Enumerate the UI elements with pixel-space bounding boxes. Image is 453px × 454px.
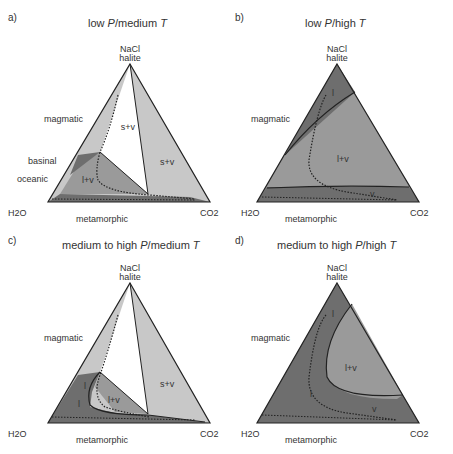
svg-text:metamorphic: metamorphic <box>285 435 338 445</box>
svg-text:CO2: CO2 <box>200 429 219 439</box>
svg-text:magmatic: magmatic <box>251 114 291 124</box>
svg-text:l: l <box>78 399 80 409</box>
svg-text:magmatic: magmatic <box>44 333 84 343</box>
svg-text:CO2: CO2 <box>410 429 429 439</box>
ternary-diagram-a: NaCl halite s+v s+v l+v magmatic basinal… <box>0 0 226 227</box>
svg-text:l: l <box>84 381 86 391</box>
svg-text:s+v: s+v <box>160 379 175 389</box>
svg-text:s+v: s+v <box>121 122 136 132</box>
svg-text:magmatic: magmatic <box>44 114 84 124</box>
panel-b: b) low P/high T NaCl halite l l+v v magm… <box>227 0 453 227</box>
svg-text:metamorphic: metamorphic <box>285 214 338 224</box>
ternary-diagram-d: NaCl halite l l+v l v magmatic H2O CO2 m… <box>227 227 453 454</box>
svg-text:halite: halite <box>119 272 141 282</box>
panel-c: c) medium to high P/medium T NaCl halite… <box>0 227 226 454</box>
svg-text:v: v <box>372 404 377 414</box>
svg-text:halite: halite <box>119 53 141 63</box>
svg-text:l+v: l+v <box>337 154 349 164</box>
svg-text:basinal: basinal <box>28 156 57 166</box>
ternary-diagram-b: NaCl halite l l+v v magmatic H2O CO2 met… <box>227 0 453 227</box>
panel-d: d) medium to high P/high T NaCl halite l… <box>227 227 453 454</box>
svg-text:halite: halite <box>326 272 348 282</box>
svg-text:l+v: l+v <box>345 363 357 373</box>
svg-text:l: l <box>310 389 312 399</box>
svg-text:H2O: H2O <box>241 429 260 439</box>
svg-text:l+v: l+v <box>82 175 94 185</box>
svg-text:metamorphic: metamorphic <box>76 214 129 224</box>
svg-text:metamorphic: metamorphic <box>76 435 129 445</box>
svg-text:oceanic: oceanic <box>17 174 49 184</box>
ternary-diagram-c: NaCl halite s+v l+v l l magmatic H2O CO2… <box>0 227 226 454</box>
panel-a: a) low P/medium T NaCl halite s+v s+v l+… <box>0 0 226 227</box>
svg-text:magmatic: magmatic <box>251 333 291 343</box>
svg-text:CO2: CO2 <box>200 208 219 218</box>
svg-text:s+v: s+v <box>160 157 175 167</box>
svg-text:halite: halite <box>326 53 348 63</box>
svg-text:CO2: CO2 <box>410 208 429 218</box>
svg-text:H2O: H2O <box>241 208 260 218</box>
svg-text:v: v <box>370 189 375 199</box>
svg-text:H2O: H2O <box>8 429 27 439</box>
svg-text:l: l <box>332 88 334 98</box>
svg-text:H2O: H2O <box>8 208 27 218</box>
svg-text:l+v: l+v <box>108 395 120 405</box>
svg-text:l: l <box>332 309 334 319</box>
